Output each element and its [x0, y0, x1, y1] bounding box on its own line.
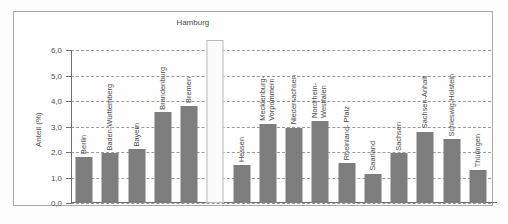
bar-slot[interactable]: Schleswig-Holstein [439, 50, 465, 203]
bar-schleswig-holstein[interactable] [443, 139, 460, 203]
y-tick [66, 203, 72, 204]
bar-label-wrap: Bayern [132, 53, 141, 146]
y-axis-title: Anteil (%) [34, 112, 43, 147]
bar-label: Sachsen-Anhalt [421, 76, 430, 128]
y-tick-label: 4,0 [51, 97, 62, 106]
bar-brandenburg[interactable] [154, 112, 171, 203]
bar-series: BerlinBaden-WürttembergBayernBrandenburg… [71, 50, 491, 203]
bar-slot[interactable]: Nordrhein-Westfalen [307, 50, 333, 203]
gridline-0-0 [71, 203, 491, 204]
bar-label: Hessen [237, 137, 246, 162]
bar-slot[interactable]: Saarland [360, 50, 386, 203]
bar-label-wrap: Hessen [237, 53, 246, 162]
bar-label-wrap: Thüringen [474, 53, 483, 167]
bar-th-ringen[interactable] [469, 170, 486, 203]
bar-slot[interactable]: Mecklenburg-Vorpommern [255, 50, 281, 203]
bar-bayern[interactable] [128, 149, 145, 203]
bar-label: Baden-Württemberg [106, 84, 115, 151]
bar-label-wrap: Rheinland- Pfalz [342, 53, 351, 160]
chart-screenshot: Anteil (%) 0,01,02,03,04,05,06,0 BerlinB… [0, 0, 508, 224]
bar-slot[interactable]: Baden-Württemberg [97, 50, 123, 203]
bar-rheinland-pfalz[interactable] [338, 163, 355, 203]
bar-label-wrap: Mecklenburg-Vorpommern [259, 53, 276, 121]
bar-hamburg[interactable] [207, 40, 224, 203]
y-tick-label: 0,0 [51, 199, 62, 208]
bar-label-wrap: Schleswig-Holstein [447, 53, 456, 136]
bar-label-wrap: Sachsen-Anhalt [421, 53, 430, 129]
plot-area: 0,01,02,03,04,05,06,0 BerlinBaden-Württe… [71, 50, 491, 203]
bar-label-wrap: Sachsen [395, 53, 404, 150]
bar-mecklenburg-vorpommern[interactable] [259, 124, 276, 203]
bar-label: Niedersachsen [290, 75, 299, 124]
y-tick-label: 2,0 [51, 148, 62, 157]
chart-frame: Anteil (%) 0,01,02,03,04,05,06,0 BerlinB… [13, 11, 493, 206]
bar-label-wrap: Saarland [369, 53, 378, 171]
bar-baden-w-rttemberg[interactable] [102, 153, 119, 203]
bar-nordrhein-westfalen[interactable] [312, 121, 329, 203]
bar-sachsen[interactable] [391, 153, 408, 203]
bar-slot[interactable]: Bayern [124, 50, 150, 203]
bar-slot[interactable]: Niedersachsen [281, 50, 307, 203]
bar-label-wrap: Brandenburg [159, 53, 168, 109]
y-tick-label: 3,0 [51, 122, 62, 131]
y-tick-label: 1,0 [51, 173, 62, 182]
bar-label: Thüringen [474, 134, 483, 167]
bar-berlin[interactable] [76, 157, 93, 203]
bar-label-wrap: Niedersachsen [290, 53, 299, 125]
bar-slot[interactable]: Berlin [71, 50, 97, 203]
bar-slot[interactable]: Bremen [176, 50, 202, 203]
bar-label-wrap: Bremen [185, 53, 194, 103]
bar-bremen[interactable] [181, 106, 198, 203]
bar-label: Rheinland- Pfalz [342, 106, 351, 160]
hamburg-annotation-label: Hamburg [176, 18, 209, 27]
bar-slot[interactable]: Sachsen [386, 50, 412, 203]
bar-slot[interactable]: Brandenburg [150, 50, 176, 203]
bar-label-wrap: Berlin [80, 53, 89, 154]
y-tick-label: 5,0 [51, 71, 62, 80]
bar-label: Bayern [132, 123, 141, 146]
bar-label: Berlin [80, 135, 89, 154]
bar-slot[interactable]: Sachsen-Anhalt [412, 50, 438, 203]
bar-slot[interactable]: Rheinland- Pfalz [334, 50, 360, 203]
y-tick-label: 6,0 [51, 46, 62, 55]
bar-label: Nordrhein-Westfalen [312, 83, 329, 118]
bar-label: Saarland [369, 141, 378, 171]
bar-label: Mecklenburg-Vorpommern [259, 76, 276, 121]
bar-hessen[interactable] [233, 165, 250, 203]
bar-slot[interactable] [202, 50, 228, 203]
bar-slot[interactable]: Hessen [229, 50, 255, 203]
bar-label-wrap: Baden-Württemberg [106, 53, 115, 150]
bar-saarland[interactable] [364, 174, 381, 203]
bar-label: Schleswig-Holstein [447, 74, 456, 136]
bar-label: Sachsen [395, 122, 404, 151]
bar-label: Bremen [185, 77, 194, 103]
bar-slot[interactable]: Thüringen [465, 50, 491, 203]
bar-sachsen-anhalt[interactable] [417, 132, 434, 203]
bar-label: Brandenburg [159, 67, 168, 110]
bar-label-wrap: Nordrhein-Westfalen [312, 53, 329, 118]
bar-niedersachsen[interactable] [286, 128, 303, 203]
